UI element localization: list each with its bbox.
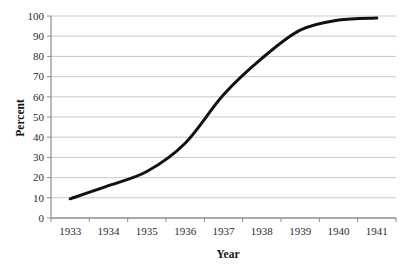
y-tick-label: 40: [33, 131, 45, 143]
chart-container: 0102030405060708090100 19331934193519361…: [0, 0, 404, 266]
line-chart: 0102030405060708090100 19331934193519361…: [0, 0, 404, 266]
x-tick-label: 1933: [59, 225, 82, 237]
y-tick-label: 60: [33, 91, 45, 103]
x-tick-label: 1941: [366, 225, 388, 237]
y-tick-label: 30: [33, 151, 45, 163]
y-axis-title: Percent: [14, 99, 26, 137]
x-axis-tick-labels: 193319341935193619371938193919401941: [59, 225, 388, 237]
y-tick-label: 50: [33, 111, 45, 123]
y-tick-label: 20: [33, 171, 45, 183]
y-tick-label: 100: [28, 10, 45, 22]
y-tick-label: 70: [33, 70, 45, 82]
x-tick-label: 1939: [289, 225, 312, 237]
y-tick-label: 90: [33, 30, 45, 42]
x-axis-title: Year: [217, 248, 240, 260]
x-tick-label: 1940: [328, 225, 351, 237]
x-tick-label: 1935: [136, 225, 159, 237]
x-tick-label: 1938: [251, 225, 274, 237]
y-tick-label: 0: [39, 212, 45, 224]
y-tick-label: 80: [33, 50, 45, 62]
x-tick-label: 1936: [174, 225, 197, 237]
x-tick-label: 1937: [213, 225, 236, 237]
x-tick-label: 1934: [98, 225, 121, 237]
y-tick-label: 10: [33, 192, 45, 204]
